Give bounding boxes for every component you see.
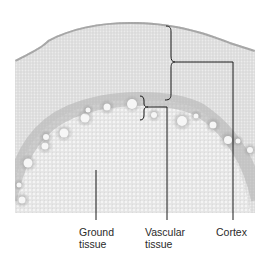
ground-tissue-label-line2: tissue	[79, 238, 114, 250]
cortex-label-line1: Cortex	[216, 226, 247, 238]
vascular-tissue-label-line2: tissue	[145, 238, 185, 250]
stem-cross-section-figure: Ground tissue Vascular tissue Cortex	[0, 0, 270, 256]
stem-section	[0, 0, 270, 256]
ground-tissue-label: Ground tissue	[79, 226, 114, 250]
ground-tissue-label-line1: Ground	[79, 226, 114, 238]
vascular-tissue-label: Vascular tissue	[145, 226, 185, 250]
cortex-label: Cortex	[216, 226, 247, 238]
vascular-tissue-label-line1: Vascular	[145, 226, 185, 238]
micrograph	[0, 0, 270, 256]
